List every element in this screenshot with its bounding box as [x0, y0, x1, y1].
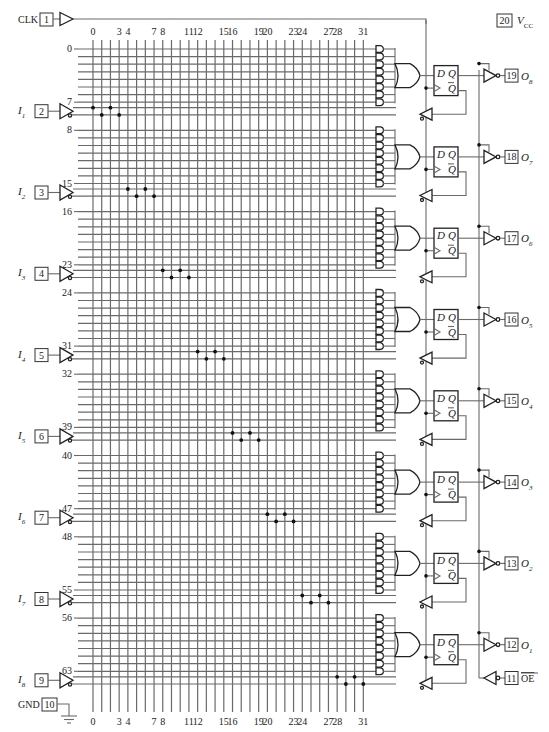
and-gate: [376, 498, 383, 505]
inverter-bubble: [68, 602, 71, 605]
inverter-bubble: [421, 361, 424, 364]
and-gate: [376, 216, 383, 223]
connection-dot: [309, 601, 313, 605]
clock-line: [73, 19, 426, 24]
gnd-pin-number: 10: [45, 699, 55, 710]
connection-dot: [300, 594, 304, 598]
column-label-bottom: 3: [117, 716, 122, 727]
input-pin-number: 9: [39, 675, 44, 686]
and-gate: [376, 165, 383, 172]
column-label-top: 8: [160, 26, 165, 37]
column-label-bottom: 24: [297, 716, 307, 727]
and-gate: [376, 231, 383, 238]
output-buffer-icon: [484, 476, 496, 489]
input-pin-number: 8: [39, 594, 44, 605]
output-buffer-icon: [484, 557, 496, 570]
ff-d-label: D: [436, 392, 445, 404]
ff-q-label: Q: [448, 636, 456, 648]
connection-dot: [274, 520, 278, 524]
ff-q-label: Q: [448, 148, 456, 160]
row-label: 48: [62, 531, 72, 542]
inverter-bubble: [421, 442, 424, 445]
connection-dot: [178, 268, 182, 272]
inverter-bubble: [421, 117, 424, 120]
ff-q-label: Q: [448, 229, 456, 241]
and-gate: [376, 533, 383, 540]
row-label: 24: [62, 287, 72, 298]
ff-qbar-label: Q: [448, 326, 456, 338]
connection-dot: [143, 187, 147, 191]
or-gate: [395, 308, 420, 332]
and-gate: [376, 335, 383, 342]
and-gate: [376, 483, 383, 490]
ff-d-label: D: [436, 311, 445, 323]
oe-junction-dot: [477, 306, 481, 310]
inverter-bubble: [496, 562, 500, 566]
column-label-top: 12: [193, 26, 203, 37]
connection-dot: [152, 194, 156, 198]
output-buffer-icon: [484, 638, 496, 651]
ff-q-label: Q: [448, 392, 456, 404]
and-gate: [376, 401, 383, 408]
inverter-bubble: [421, 280, 424, 283]
column-label-bottom: 8: [160, 716, 165, 727]
and-gate: [376, 541, 383, 548]
and-gate: [376, 452, 383, 459]
and-gate: [376, 61, 383, 68]
or-gate: [395, 551, 420, 575]
and-gate: [376, 297, 383, 304]
or-gate: [395, 64, 420, 88]
and-gate: [376, 475, 383, 482]
connection-dot: [283, 512, 287, 516]
row-label: 16: [62, 206, 72, 217]
gnd-label: GND: [18, 699, 40, 710]
and-gate: [376, 150, 383, 157]
connection-dot: [361, 682, 365, 686]
and-gate: [376, 312, 383, 319]
ff-qbar-label: Q: [448, 244, 456, 256]
clock-junction-dot: [424, 330, 428, 334]
and-gate: [376, 556, 383, 563]
input-pin-number: 7: [39, 512, 44, 523]
column-label-top: 3: [117, 26, 122, 37]
and-gate: [376, 305, 383, 312]
clk-pin-number: 1: [44, 14, 49, 25]
ff-d-label: D: [436, 636, 445, 648]
and-gate: [376, 424, 383, 431]
output-signal-name: O4: [521, 395, 533, 411]
and-array-grid: 0033447788111112121515161619192020232324…: [67, 26, 420, 727]
oe-junction-dot: [477, 468, 481, 472]
and-gate: [376, 587, 383, 594]
output-buffer-icon: [484, 232, 496, 245]
column-label-top: 4: [125, 26, 130, 37]
and-gate: [376, 668, 383, 675]
or-gate: [395, 470, 420, 494]
and-gate: [376, 53, 383, 60]
oe-junction-dot: [477, 62, 481, 66]
connection-dot: [170, 276, 174, 280]
output-pin-number: 13: [507, 558, 517, 569]
clock-junction-dot: [424, 655, 428, 659]
inverter-bubble: [421, 199, 424, 202]
and-gate: [376, 127, 383, 134]
oe-junction-dot: [477, 631, 481, 635]
and-gate: [376, 386, 383, 393]
and-gate: [376, 290, 383, 297]
inverter-bubble: [496, 236, 500, 240]
or-gate: [395, 226, 420, 250]
and-gate: [376, 505, 383, 512]
inverter-bubble: [421, 686, 424, 689]
ff-qbar-label: Q: [448, 82, 456, 94]
and-gate: [376, 549, 383, 556]
connection-dot: [100, 113, 104, 117]
and-gate: [376, 157, 383, 164]
clock-junction-dot: [424, 168, 428, 172]
row-label: 8: [67, 124, 72, 135]
and-gate: [376, 630, 383, 637]
and-gate: [376, 239, 383, 246]
or-gate: [395, 145, 420, 169]
connection-dot: [292, 520, 296, 524]
and-gate: [376, 135, 383, 142]
inverter-bubble: [421, 524, 424, 527]
connection-dot: [335, 675, 339, 679]
